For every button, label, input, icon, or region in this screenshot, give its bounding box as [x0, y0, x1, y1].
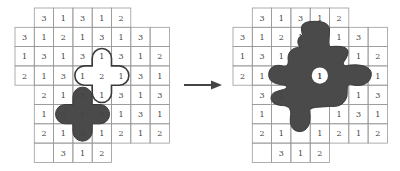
cell-value: 1: [259, 72, 264, 81]
grid-cell: [150, 27, 169, 46]
cell-value: 1: [259, 110, 264, 119]
cell-value: 3: [99, 33, 104, 42]
cell-value: 1: [337, 33, 342, 42]
cell-value: 2: [317, 149, 322, 158]
cell-value: 1: [61, 14, 66, 23]
diagram-canvas: 3131231213131313131221312131213131313131…: [0, 0, 400, 171]
cell-value: 2: [41, 91, 46, 100]
cell-value: 3: [61, 72, 66, 81]
cell-value: 1: [22, 52, 27, 61]
cell-value: 3: [138, 72, 143, 81]
cell-value: 1: [356, 129, 361, 138]
cell-value: 1: [80, 33, 85, 42]
cell-value: 2: [337, 14, 342, 23]
cell-value: 2: [22, 72, 27, 81]
cell-value: 2: [240, 72, 245, 81]
cell-value: 2: [279, 33, 284, 42]
cell-value: 1: [41, 72, 46, 81]
cell-value: 1: [99, 91, 104, 100]
cell-value: 3: [138, 110, 143, 119]
cell-value: 2: [375, 129, 380, 138]
cell-value: 1: [279, 129, 284, 138]
cell-value: 3: [279, 149, 284, 158]
grid-cell: [34, 143, 53, 162]
cell-value: 1: [99, 52, 104, 61]
cell-value: 2: [259, 129, 264, 138]
cell-value: 3: [80, 91, 85, 100]
cell-value: 3: [298, 14, 303, 23]
cell-value: 1: [61, 129, 66, 138]
cell-value: 1: [80, 110, 85, 119]
cell-value: 3: [119, 91, 124, 100]
cell-value: 2: [41, 129, 46, 138]
cell-value: 2: [99, 149, 104, 158]
cell-value: 3: [41, 14, 46, 23]
cell-value: 1: [298, 149, 303, 158]
cell-value: 3: [356, 33, 361, 42]
cell-value: 2: [61, 33, 66, 42]
cell-value: 2: [99, 72, 104, 81]
cell-value: 1: [41, 33, 46, 42]
cell-value: 1: [41, 110, 46, 119]
cell-value: 3: [375, 91, 380, 100]
cell-value: 1: [138, 52, 143, 61]
cell-value: 3: [259, 14, 264, 23]
cell-value: 1: [375, 110, 380, 119]
cell-value: 3: [80, 14, 85, 23]
grid-cell: [252, 143, 271, 162]
cell-value: 3: [259, 52, 264, 61]
cell-value: 2: [375, 52, 380, 61]
cell-value: 1: [157, 110, 162, 119]
cell-value: 2: [157, 52, 162, 61]
cell-value: 2: [157, 129, 162, 138]
cell-value: 1: [61, 52, 66, 61]
cell-value: 1: [375, 72, 380, 81]
cell-value: 1: [259, 33, 264, 42]
cell-value: 1: [317, 72, 322, 81]
cell-value: 1: [356, 52, 361, 61]
cell-value: 2: [119, 14, 124, 23]
cell-value: 1: [317, 14, 322, 23]
grid-cell: [368, 27, 387, 46]
cell-value: 2: [119, 129, 124, 138]
cell-value: 1: [138, 91, 143, 100]
cell-value: 3: [22, 33, 27, 42]
cell-value: 3: [41, 52, 46, 61]
cell-value: 1: [240, 52, 245, 61]
cell-value: 1: [80, 72, 85, 81]
cell-value: 3: [240, 33, 245, 42]
cell-value: 1: [337, 110, 342, 119]
cell-value: 1: [279, 52, 284, 61]
cell-value: 1: [99, 14, 104, 23]
cell-value: 1: [119, 110, 124, 119]
cell-value: 3: [61, 110, 66, 119]
cell-value: 3: [80, 52, 85, 61]
cell-value: 1: [61, 91, 66, 100]
cell-value: 1: [80, 149, 85, 158]
cell-value: 1: [356, 91, 361, 100]
cell-value: 1: [279, 91, 284, 100]
cell-value: 1: [99, 129, 104, 138]
cell-value: 3: [138, 33, 143, 42]
cell-value: 1: [317, 129, 322, 138]
cell-value: 1: [279, 14, 284, 23]
cell-value: 3: [80, 129, 85, 138]
cell-value: 3: [119, 52, 124, 61]
cell-value: 3: [99, 110, 104, 119]
cell-value: 3: [259, 91, 264, 100]
cell-value: 1: [157, 72, 162, 81]
cell-value: 1: [119, 33, 124, 42]
cell-value: 3: [61, 149, 66, 158]
cell-value: 2: [337, 129, 342, 138]
arrow-icon: [184, 81, 222, 90]
cell-value: 1: [138, 129, 143, 138]
cell-value: 1: [119, 72, 124, 81]
cell-value: 3: [157, 91, 162, 100]
cell-value: 1: [298, 33, 303, 42]
cell-value: 3: [356, 110, 361, 119]
